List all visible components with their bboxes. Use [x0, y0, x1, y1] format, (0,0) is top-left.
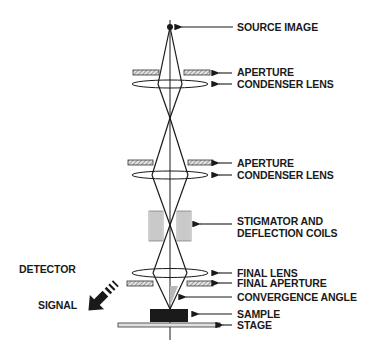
label-final-aperture: FINAL APERTURE	[237, 278, 327, 289]
label-aperture-2: APERTURE	[237, 158, 294, 169]
signal-arrow-icon	[81, 270, 129, 318]
stage-plate	[118, 323, 220, 327]
aperture-2-right	[188, 160, 213, 165]
label-aperture-1: APERTURE	[237, 67, 294, 78]
label-stage: STAGE	[237, 320, 272, 331]
label-signal: SIGNAL	[38, 300, 77, 311]
label-condenser-lens-1: CONDENSER LENS	[237, 79, 334, 90]
final-aperture-left	[127, 281, 153, 286]
label-detector: DETECTOR	[19, 264, 76, 275]
aperture-1-right	[184, 70, 210, 75]
label-source-image: SOURCE IMAGE	[237, 22, 318, 33]
label-convergence-angle: CONVERGENCE ANGLE	[237, 292, 357, 303]
label-condenser-lens-2: CONDENSER LENS	[237, 170, 334, 181]
final-aperture-right	[187, 281, 213, 286]
aperture-1-left	[133, 70, 159, 75]
label-stigmator-line2: DEFLECTION COILS	[237, 228, 337, 239]
aperture-2-left	[128, 160, 153, 165]
sample-block	[150, 309, 188, 322]
label-stigmator-line1: STIGMATOR AND	[237, 216, 323, 227]
